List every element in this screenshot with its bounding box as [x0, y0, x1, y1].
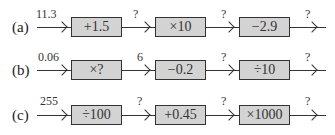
function-machine-row-b: (b) 0.06 ×? 6 −0.2 ? ÷10 ? — [0, 50, 335, 90]
operation-box: ×? — [71, 60, 122, 80]
arrowhead-icon — [306, 21, 317, 32]
operation-box: +0.45 — [155, 105, 206, 125]
output-value: ? — [305, 94, 310, 109]
arrowhead-icon — [139, 64, 150, 75]
function-machine-row-a: (a) 11.3 +1.5 ? ×10 ? −2.9 ? — [0, 7, 335, 47]
input-value: 0.06 — [38, 50, 59, 65]
operation-box: ×1000 — [239, 105, 290, 125]
input-value: 255 — [40, 94, 58, 109]
output-value: ? — [221, 7, 226, 22]
operation-box: −2.9 — [239, 17, 290, 37]
input-value: 11.3 — [36, 7, 57, 22]
operation-box: +1.5 — [71, 17, 122, 37]
output-value: ? — [221, 50, 226, 65]
arrowhead-icon — [56, 109, 67, 120]
output-value: ? — [305, 50, 310, 65]
operation-box: −0.2 — [155, 60, 206, 80]
output-value: ? — [305, 7, 310, 22]
operation-box: ×10 — [155, 17, 206, 37]
arrowhead-icon — [223, 109, 234, 120]
arrowhead-icon — [56, 21, 67, 32]
arrowhead-icon — [223, 21, 234, 32]
output-value: ? — [221, 94, 226, 109]
arrowhead-icon — [306, 109, 317, 120]
row-label: (a) — [12, 19, 29, 36]
output-value: 6 — [137, 50, 143, 65]
operation-box: ÷10 — [239, 60, 290, 80]
row-label: (b) — [12, 62, 30, 79]
row-label: (c) — [12, 107, 29, 124]
arrowhead-icon — [306, 64, 317, 75]
output-value: ? — [137, 94, 142, 109]
arrowhead-icon — [223, 64, 234, 75]
function-machine-row-c: (c) 255 ÷100 ? +0.45 ? ×1000 ? — [0, 93, 335, 133]
operation-box: ÷100 — [71, 105, 122, 125]
arrowhead-icon — [56, 64, 67, 75]
output-value: ? — [133, 7, 138, 22]
arrowhead-icon — [139, 21, 150, 32]
arrowhead-icon — [139, 109, 150, 120]
